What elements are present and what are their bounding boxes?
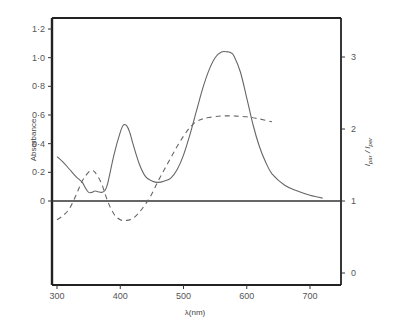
y-tick-label: 0·8 <box>32 81 45 91</box>
y2-tick-label: 3 <box>351 52 356 62</box>
x-tick-label: 400 <box>113 291 128 301</box>
y-tick-label: 0·2 <box>32 167 45 177</box>
x-axis-label: λ(nm) <box>185 308 206 317</box>
polarization-ratio-curve <box>57 116 272 221</box>
y2-tick-label: 0 <box>351 268 356 278</box>
x-axis-ticks: 300400500600700 <box>49 285 317 301</box>
y-tick-label: 0 <box>40 196 45 206</box>
y2-tick-label: 2 <box>351 124 356 134</box>
series-layer <box>57 51 323 220</box>
y2-tick-label: 1 <box>351 196 356 206</box>
y-tick-label: 1·0 <box>32 53 45 63</box>
x-tick-label: 600 <box>239 291 254 301</box>
svg-text:Ipar / Iper: Ipar / Iper <box>363 137 373 166</box>
y-tick-label: 1·2 <box>32 24 45 34</box>
absorbance-polarization-chart: 00·20·40·60·81·01·2 0123 300400500600700… <box>0 0 393 330</box>
plot-frame <box>52 18 341 285</box>
y2-axis-label: Ipar / Iper <box>363 137 373 166</box>
y-tick-label: 0·6 <box>32 110 45 120</box>
absorbance-curve <box>57 51 323 198</box>
right-y-axis-ticks: 0123 <box>341 52 356 278</box>
x-tick-label: 300 <box>49 291 64 301</box>
x-tick-label: 700 <box>302 291 317 301</box>
y-axis-label: Absorbance <box>29 118 38 161</box>
x-tick-label: 500 <box>176 291 191 301</box>
left-y-axis-ticks: 00·20·40·60·81·01·2 <box>32 24 52 206</box>
